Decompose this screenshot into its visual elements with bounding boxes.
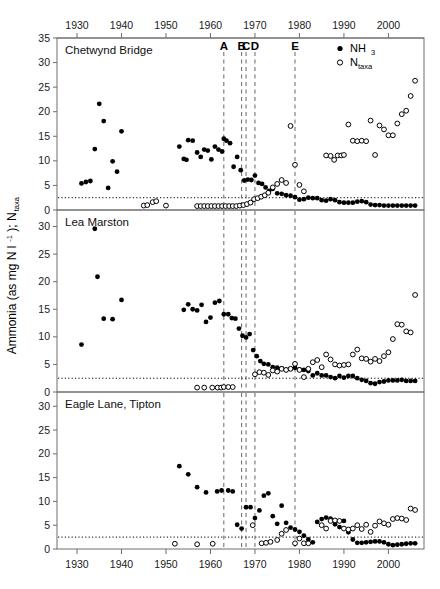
data-point-ntaxa (413, 293, 418, 298)
data-point-ntaxa (328, 357, 333, 362)
top-axis-tick-label: 1970 (243, 19, 267, 31)
data-point-ntaxa (390, 133, 395, 138)
data-point-nh3 (350, 374, 355, 379)
data-point-nh3 (386, 542, 391, 547)
data-point-ntaxa (373, 523, 378, 528)
data-point-nh3 (235, 522, 240, 527)
data-point-nh3 (101, 316, 106, 321)
data-point-nh3 (346, 200, 351, 205)
y-axis-tick-label: 10 (38, 154, 50, 166)
data-point-ntaxa (195, 385, 200, 390)
data-point-nh3 (260, 182, 265, 187)
top-axis-tick-label: 1980 (288, 19, 312, 31)
data-point-nh3 (195, 485, 200, 490)
data-point-nh3 (261, 493, 266, 498)
data-point-nh3 (275, 521, 280, 526)
y-axis-tick-label: 10 (38, 495, 50, 507)
data-point-nh3 (399, 203, 404, 208)
panel-title: Lea Marston (65, 216, 129, 228)
legend-label-nh3: NH (350, 42, 366, 54)
bottom-axis-tick-label: 1960 (199, 558, 223, 570)
y-axis-tick-label: 0 (44, 386, 50, 398)
legend-marker-ntaxa (337, 60, 342, 65)
data-point-nh3 (359, 540, 364, 545)
data-point-nh3 (390, 378, 395, 383)
data-point-nh3 (382, 203, 387, 208)
data-point-ntaxa (324, 526, 329, 531)
data-point-nh3 (186, 472, 191, 477)
y-axis-tick-label: 25 (38, 248, 50, 260)
panel-frame (57, 210, 424, 392)
figure-root: 1930194019501960197019801990200005101520… (0, 0, 440, 589)
data-point-ntaxa (266, 373, 271, 378)
top-axis-tick-label: 1940 (110, 19, 134, 31)
data-point-nh3 (266, 362, 271, 367)
data-point-nh3 (209, 157, 214, 162)
event-labels: ABCDE (220, 40, 299, 52)
data-point-ntaxa (319, 523, 324, 528)
data-point-nh3 (110, 317, 115, 322)
series-ntaxa (141, 78, 417, 208)
data-point-ntaxa (154, 199, 159, 204)
data-point-nh3 (301, 533, 306, 538)
data-point-ntaxa (210, 385, 215, 390)
series-nh3 (79, 101, 417, 208)
y-axis-tick-label: 5 (44, 358, 50, 370)
data-point-nh3 (324, 515, 329, 520)
data-point-nh3 (186, 302, 191, 307)
y-axis-title-text: Ammonia (as mg N l (5, 246, 19, 355)
panel-3: 051015202530Eagle Lane, Tipton (38, 392, 424, 555)
data-point-ntaxa (275, 182, 280, 187)
data-point-nh3 (368, 381, 373, 386)
data-point-ntaxa (346, 362, 351, 367)
event-label-e: E (291, 40, 299, 52)
panel-2: 051015202530Lea Marston (38, 210, 424, 398)
data-point-ntaxa (195, 542, 200, 547)
y-axis-tick-label: 0 (44, 204, 50, 216)
data-point-nh3 (342, 375, 347, 380)
data-point-nh3 (219, 488, 224, 493)
data-point-nh3 (395, 378, 400, 383)
data-point-nh3 (337, 200, 342, 205)
data-point-ntaxa (275, 369, 280, 374)
data-point-nh3 (355, 199, 360, 204)
data-point-nh3 (373, 381, 378, 386)
bottom-axis: 19301940195019601970198019902000 (65, 549, 400, 570)
legend-sub-ntaxa: taxa (358, 62, 373, 71)
legend-sub-nh3: 3 (371, 48, 375, 57)
data-point-nh3 (315, 519, 320, 524)
data-point-ntaxa (145, 203, 150, 208)
y-axis-title-subscript: taxa (12, 196, 21, 211)
data-point-nh3 (404, 541, 409, 546)
data-point-nh3 (215, 489, 220, 494)
data-point-ntaxa (342, 153, 347, 158)
data-point-ntaxa (210, 541, 215, 546)
data-point-nh3 (386, 203, 391, 208)
data-point-ntaxa (364, 522, 369, 527)
data-point-ntaxa (293, 361, 298, 366)
data-point-nh3 (84, 180, 89, 185)
data-point-nh3 (177, 144, 182, 149)
event-label-c: C (242, 40, 250, 52)
y-axis-tick-label: 30 (38, 56, 50, 68)
data-point-nh3 (324, 373, 329, 378)
data-point-ntaxa (279, 178, 284, 183)
data-point-nh3 (293, 195, 298, 200)
data-point-nh3 (413, 379, 418, 384)
data-point-nh3 (279, 191, 284, 196)
y-axis-tick-label: 15 (38, 303, 50, 315)
data-point-nh3 (270, 514, 275, 519)
panel-1: 05101520253035Chetwynd Bridge (38, 32, 424, 216)
data-point-nh3 (204, 320, 209, 325)
data-point-nh3 (408, 379, 413, 384)
data-point-nh3 (324, 198, 329, 203)
data-point-nh3 (248, 505, 253, 510)
data-point-nh3 (198, 155, 203, 160)
data-point-nh3 (221, 312, 226, 317)
y-axis-tick-label: 30 (38, 220, 50, 232)
data-point-ntaxa (297, 183, 302, 188)
data-point-ntaxa (202, 385, 207, 390)
data-point-ntaxa (350, 526, 355, 531)
data-point-ntaxa (395, 121, 400, 126)
data-point-nh3 (119, 297, 124, 302)
